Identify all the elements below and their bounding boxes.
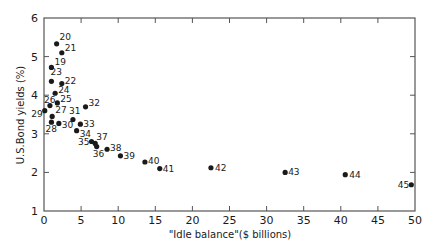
point-label: 37 (96, 132, 107, 142)
point-label: 30 (62, 120, 74, 130)
point-marker-icon (343, 172, 348, 177)
point-marker-icon (118, 153, 123, 158)
point-marker-icon (157, 166, 162, 171)
data-point: 43 (283, 167, 300, 177)
point-label: 23 (50, 67, 61, 77)
data-point: 29 (31, 108, 47, 119)
x-tick-label: 25 (223, 214, 237, 227)
y-tick-label: 2 (31, 166, 38, 179)
point-label: 20 (60, 32, 72, 42)
data-point: 42 (208, 163, 226, 173)
y-tick-label: 6 (31, 12, 38, 25)
point-marker-icon (59, 50, 64, 55)
x-tick-label: 40 (334, 214, 348, 227)
x-tick-label: 10 (111, 214, 125, 227)
point-label: 28 (45, 124, 57, 134)
data-point: 31 (69, 106, 80, 123)
y-tick-label: 1 (31, 205, 38, 218)
point-label: 45 (398, 180, 409, 190)
data-point: 36 (93, 144, 105, 159)
point-marker-icon (83, 104, 88, 109)
point-label: 43 (288, 167, 299, 177)
point-marker-icon (104, 147, 109, 152)
data-point: 23 (49, 67, 62, 84)
point-label: 22 (65, 76, 76, 86)
point-label: 26 (44, 95, 56, 105)
data-point: 44 (343, 170, 361, 180)
data-point: 38 (104, 143, 121, 153)
point-label: 33 (83, 119, 94, 129)
point-label: 38 (110, 143, 122, 153)
y-axis-title: U.S.Bond yields (%) (15, 66, 26, 165)
data-point: 45 (398, 180, 414, 190)
point-marker-icon (283, 170, 288, 175)
x-tick-label: 0 (41, 214, 48, 227)
plot-frame (44, 18, 415, 211)
point-label: 27 (55, 105, 66, 115)
y-tick-label: 3 (31, 128, 38, 141)
point-label: 41 (163, 164, 174, 174)
point-label: 31 (69, 106, 80, 116)
point-marker-icon (50, 114, 55, 119)
data-point: 26 (44, 95, 56, 109)
point-marker-icon (49, 79, 54, 84)
data-point: 27 (50, 105, 67, 119)
data-point: 25 (55, 94, 72, 106)
data-point: 21 (59, 43, 76, 56)
data-point: 41 (157, 164, 174, 174)
point-marker-icon (70, 117, 75, 122)
x-tick-label: 35 (297, 214, 311, 227)
x-tick-label: 15 (148, 214, 162, 227)
scatter-chart: 05101520253035404550123456 1920212223242… (0, 0, 440, 243)
point-label: 25 (60, 94, 71, 104)
data-point: 30 (56, 120, 73, 130)
point-label: 35 (78, 137, 89, 147)
x-tick-label: 5 (78, 214, 85, 227)
data-point: 28 (45, 120, 57, 135)
x-tick-label: 45 (371, 214, 385, 227)
point-label: 29 (31, 109, 43, 119)
plot-border (44, 18, 415, 211)
point-label: 39 (123, 151, 135, 161)
point-marker-icon (78, 122, 83, 127)
x-tick-label: 30 (260, 214, 274, 227)
point-marker-icon (409, 182, 414, 187)
point-label: 32 (89, 98, 100, 108)
point-label: 42 (215, 163, 226, 173)
point-marker-icon (208, 165, 213, 170)
data-point: 40 (142, 156, 159, 166)
point-label: 21 (65, 43, 76, 53)
data-point: 32 (83, 98, 100, 110)
x-tick-label: 20 (185, 214, 199, 227)
point-marker-icon (142, 159, 147, 164)
point-marker-icon (74, 128, 79, 133)
point-marker-icon (56, 121, 61, 126)
point-label: 19 (54, 57, 66, 67)
point-marker-icon (54, 41, 59, 46)
point-marker-icon (42, 108, 47, 113)
point-label: 44 (349, 170, 361, 180)
y-tick-label: 5 (31, 51, 38, 64)
data-points: 1920212223242526272829303132333435363738… (31, 32, 414, 190)
point-label: 40 (148, 156, 160, 166)
y-tick-label: 4 (31, 89, 38, 102)
data-point: 33 (78, 119, 95, 129)
point-label: 36 (93, 149, 105, 159)
data-point: 35 (78, 137, 94, 147)
x-tick-label: 50 (408, 214, 422, 227)
x-axis-title: "Idle balance"($ billions) (169, 229, 292, 240)
data-point: 37 (93, 132, 108, 146)
